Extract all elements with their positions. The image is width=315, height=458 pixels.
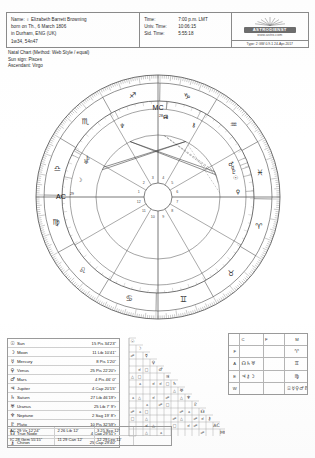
aspect-cell: ⚹ (139, 381, 142, 386)
aspect-grid-diagonal-glyph: MC (220, 430, 225, 435)
planet-name: Neptune (17, 413, 51, 418)
zodiac-glyph-sagittarius: ♐ (129, 91, 136, 100)
ascendant-line: Ascendant: Virgo (8, 63, 89, 70)
planet-marker-chiron: ⚷ (191, 121, 195, 128)
planet-name: Mars (17, 377, 51, 382)
ic-cusp: IC 28 Gem 55'15" (8, 436, 55, 444)
house-number: 12 (137, 200, 141, 204)
logo-block: ASTRODIENST www.astro.com Type: 2 GW 0.9… (231, 13, 308, 47)
aspect-cell: ☌ (152, 395, 155, 400)
planet-marker-pluto: ♇ (231, 168, 236, 175)
house2-cusp: 2 26 Lib 12' (55, 427, 95, 435)
zodiac-glyph-cancer: ♋ (125, 294, 132, 303)
house-number: 2 (143, 181, 145, 185)
birth-place: in Durham, ENG (UK) (11, 30, 139, 37)
aspect-cell: ☌ (138, 367, 141, 372)
planet-name: Mercury (17, 359, 51, 364)
universal-time-label: Univ. Time: (144, 23, 178, 30)
zodiac-glyph-libra: ♎ (53, 164, 60, 173)
sunburst-icon (250, 16, 290, 26)
aspect-grid-diagonal-glyph: ♅ (179, 388, 183, 393)
planet-name: Moon (17, 350, 51, 355)
birth-data-block: Name: ♀ Elizabeth Barrett Browning born … (7, 13, 139, 47)
aspect-cell: ⚹ (132, 395, 135, 400)
aspect-grid-diagonal-glyph: ☿ (145, 353, 148, 358)
corner-cell (229, 334, 240, 345)
water-row-label: W (229, 383, 240, 394)
planet-marker-mars: ♂ (228, 160, 233, 167)
air-fixed-cell (264, 358, 286, 369)
ascendant-cusp: AC 29 Vir 12'24" (8, 427, 55, 435)
table-row: ♆ Neptune 2 Sag 19' 8"r (8, 411, 119, 420)
planet-glyph: ♂ (8, 376, 17, 382)
universal-time-value: 10:06:15 (178, 23, 196, 30)
astrodienst-logo: ASTRODIENST www.astro.com (234, 16, 306, 37)
planet-glyph: ☽ (8, 349, 17, 355)
planet-glyph: ☉ (8, 340, 17, 346)
logo-url: www.astro.com (234, 33, 306, 37)
mc-degree: 28 (159, 114, 163, 118)
house-number: 1 (138, 190, 140, 194)
mutable-header: M (285, 334, 307, 345)
earth-cardinal-cell: ♃⚷☽ (240, 371, 264, 382)
planet-glyph: ♄ (8, 394, 17, 400)
aspect-cell: ☍ (201, 430, 205, 435)
birth-date: born on Th., 6 March 1806 (11, 23, 139, 30)
aspect-cell: □ (145, 367, 149, 372)
planet-marker-uranus: ♅ (83, 158, 88, 165)
sun-sign-line: Sun sign: Pisces (8, 57, 89, 64)
fire-mutable-cell: ♈ (285, 346, 307, 357)
ac-degree: 29 (70, 192, 74, 196)
table-row: ☿ Mercury 8 Pis 1'20" (8, 357, 119, 366)
table-row: ♃ Jupiter 4 Cap 20'15" (8, 384, 119, 393)
planet-name: Saturn (17, 395, 51, 400)
aspect-grid-diagonal-glyph: ♆ (186, 395, 190, 400)
water-cardinal-cell (240, 383, 264, 394)
aspect-cell: ⚹ (139, 409, 142, 414)
zodiac-glyph-aries: ♈ (255, 222, 262, 231)
chart-method-line: Natal Chart (Method: Web Style / equal) (8, 50, 89, 57)
air-cardinal-cell: ☊♄♅ (240, 358, 264, 369)
aspect-grid-diagonal-glyph: AC (213, 423, 219, 428)
aspect-cell: ⚹ (160, 430, 163, 435)
house-number: 9 (162, 215, 164, 219)
aspect-cell: △ (131, 374, 134, 379)
planet-glyph: ♆ (8, 412, 17, 418)
house-number: 7 (176, 200, 178, 204)
ac-label: AC (56, 193, 66, 200)
aspect-cell: ☌ (187, 423, 190, 428)
house-number: 4 (162, 176, 164, 180)
earth-mutable-cell: ♍ (285, 371, 307, 382)
aspect-cell: ⚹ (146, 402, 149, 407)
planet-glyph: ☿ (8, 358, 17, 364)
planet-position: 4 Cap 20'15" (51, 386, 119, 391)
aspect-cell: △ (180, 416, 183, 421)
chart-type-footer: Type: 2 GW 0.9-1 24-Apr-2017 (232, 40, 308, 46)
zodiac-glyph-virgo: ♍ (53, 218, 60, 227)
sidereal-time-value: 5:55:18 (178, 30, 193, 37)
aspect-cell: □ (145, 409, 149, 414)
table-row: E ♃⚷☽ ♍ (229, 371, 307, 383)
fire-cardinal-cell (240, 346, 264, 357)
planet-name: Venus (17, 368, 51, 373)
chart-subtitle: Natal Chart (Method: Web Style / equal) … (8, 50, 89, 70)
aspect-cell: ☍ (194, 416, 198, 421)
aspect-cell: □ (166, 381, 170, 386)
birth-coordinates: 1w34, 54n47 (11, 38, 139, 45)
planet-glyph: ♀ (8, 367, 17, 373)
table-row: A ☊♄♅ ♊ (229, 358, 307, 370)
aspect-grid-diagonal-glyph: ☊ (200, 409, 204, 414)
table-row: ☽ Moon 11 Lib 10'41" (8, 348, 119, 357)
zodiac-glyph-aquarius: ♒ (230, 120, 237, 129)
planet-name: Sun (17, 341, 51, 346)
planet-marker-moon: ☽ (77, 176, 82, 183)
aspect-grid-diagonal-glyph: ☽ (137, 346, 141, 351)
zodiac-glyph-scorpio: ♏ (81, 117, 89, 126)
universal-time-row: Univ. Time: 10:06:15 (144, 23, 230, 30)
air-row-label: A (229, 358, 240, 369)
aspect-cell: △ (173, 388, 176, 393)
planet-glyph: ♃ (8, 385, 17, 391)
fire-fixed-cell (264, 346, 286, 357)
aspect-cell: ☍ (159, 402, 163, 407)
zodiac-glyph-gemini: ♊ (180, 295, 187, 304)
